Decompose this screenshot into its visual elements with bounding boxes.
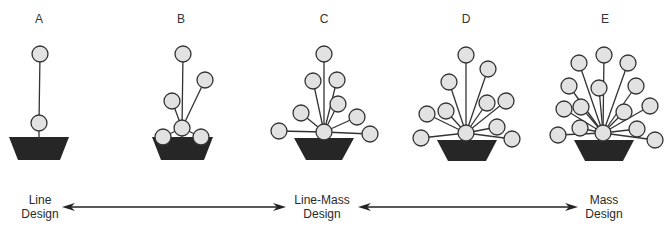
label-line2: Design — [287, 207, 357, 221]
flower-circle — [591, 80, 607, 96]
flower-stem — [182, 54, 183, 128]
label-line1: Line-Mass — [287, 193, 357, 207]
flower-circle — [561, 78, 577, 94]
flower-circle — [571, 55, 587, 71]
focal-flower-circle — [31, 115, 47, 131]
flower-circle — [441, 74, 457, 90]
panel-label-a: A — [29, 12, 49, 26]
flower-circle — [164, 93, 180, 109]
flower-circle — [293, 105, 309, 121]
flower-circle — [458, 47, 474, 63]
flower-circle — [620, 55, 636, 71]
flower-stem — [39, 54, 40, 123]
flower-circle — [479, 95, 495, 111]
vase-shape — [294, 138, 354, 160]
scale-label-line-mass-design: Line-Mass Design — [287, 193, 357, 221]
flower-circle — [504, 131, 520, 147]
scale-label-mass-design: Mass Design — [574, 193, 634, 221]
focal-flower-circle — [458, 125, 474, 141]
focal-flower-circle — [316, 124, 332, 140]
flower-circle — [175, 46, 191, 62]
flower-circle — [413, 130, 429, 146]
flower-circle — [550, 127, 566, 143]
flower-circle — [642, 98, 658, 114]
focal-flower-circle — [174, 120, 190, 136]
flower-stem — [603, 63, 628, 133]
flower-circle — [498, 93, 514, 109]
label-line1: Mass — [574, 193, 634, 207]
vase-shape — [437, 140, 497, 161]
flower-circle — [349, 109, 365, 125]
panel-label-b: B — [171, 12, 191, 26]
panel-label-d: D — [456, 12, 476, 26]
vase-shape — [9, 137, 69, 160]
flower-circle — [572, 120, 588, 136]
flower-circle — [556, 101, 572, 117]
flower-circle — [197, 72, 213, 88]
flower-circle — [193, 129, 209, 145]
label-line2: Design — [10, 207, 70, 221]
flower-circle — [330, 96, 346, 112]
label-line1: Line — [10, 193, 70, 207]
flower-circle — [271, 123, 287, 139]
flower-circle — [305, 73, 321, 89]
panel-label-e: E — [595, 12, 615, 26]
flower-circle — [362, 126, 378, 142]
flower-circle — [480, 61, 496, 77]
flower-circle — [419, 106, 435, 122]
flower-circle — [573, 99, 589, 115]
flower-circle — [628, 78, 644, 94]
flower-circle — [438, 103, 454, 119]
flower-circle — [489, 119, 505, 135]
flower-circle — [329, 72, 345, 88]
flower-circle — [596, 47, 612, 63]
label-line2: Design — [574, 207, 634, 221]
flower-circle — [32, 46, 48, 62]
scale-label-line-design: Line Design — [10, 193, 70, 221]
flower-circle — [316, 46, 332, 62]
flower-circle — [616, 104, 632, 120]
flower-circle — [155, 129, 171, 145]
vase-shape — [574, 140, 634, 161]
focal-flower-circle — [595, 125, 611, 141]
panel-label-c: C — [314, 12, 334, 26]
flower-circle — [629, 121, 645, 137]
flower-circle — [647, 132, 663, 148]
